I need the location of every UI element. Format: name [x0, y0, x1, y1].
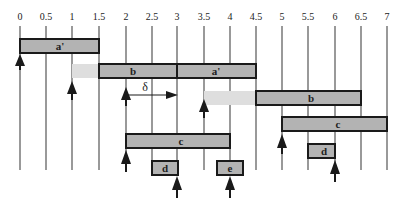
- tick-label: 4: [228, 11, 233, 22]
- arrow-up-icon: [121, 87, 131, 106]
- arrow-up-icon: [330, 160, 340, 182]
- bar-c-right: [282, 117, 387, 131]
- arrow-up-icon: [15, 54, 25, 70]
- bar-label: c: [336, 118, 341, 130]
- arrow-up-icon: [67, 81, 77, 100]
- tick-label: 1.5: [93, 11, 106, 22]
- tick-label: 0.5: [40, 11, 53, 22]
- delta-label: δ: [142, 80, 148, 94]
- bar-label: b: [308, 92, 314, 104]
- bar-b-first: [99, 64, 177, 78]
- tick-label: 1: [70, 11, 75, 22]
- arrow-up-icon: [225, 176, 235, 198]
- tick-label: 2.5: [146, 11, 159, 22]
- arrow-up-icon: [121, 150, 131, 172]
- tick-label: 5: [280, 11, 285, 22]
- tick-label: 6: [333, 11, 338, 22]
- axis-ticks: 0 0.5 1 1.5 2 2.5 3 3.5 4 4.5 5 5.5 6 6.…: [18, 11, 390, 22]
- tick-label: 3: [175, 11, 180, 22]
- arrow-up-icon: [277, 134, 287, 154]
- bar-label: a': [212, 65, 221, 77]
- tick-label: 6.5: [355, 11, 368, 22]
- tick-label: 0: [18, 11, 23, 22]
- idle-segment: [204, 91, 256, 105]
- bar-label: e: [228, 162, 233, 174]
- tick-label: 5.5: [302, 11, 315, 22]
- schedule-diagram: 0 0.5 1 1.5 2 2.5 3 3.5 4 4.5 5 5.5 6 6.…: [0, 0, 404, 208]
- idle-segment: [72, 64, 99, 78]
- tick-label: 7: [385, 11, 390, 22]
- bar-label: c: [179, 135, 184, 147]
- bar-label: b: [130, 65, 136, 77]
- tick-label: 4.5: [250, 11, 263, 22]
- bar-label: a': [56, 40, 65, 52]
- arrow-up-icon: [172, 176, 182, 198]
- tick-label: 3.5: [198, 11, 211, 22]
- bar-label: d: [321, 145, 327, 157]
- tick-label: 2: [124, 11, 129, 22]
- bar-label: d: [162, 162, 168, 174]
